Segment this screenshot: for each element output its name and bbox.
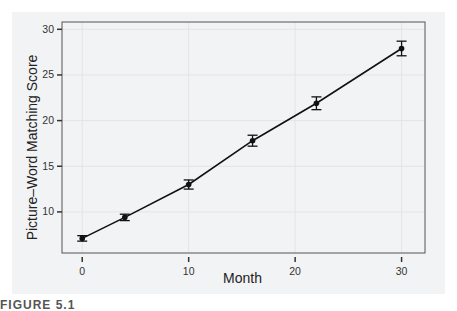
y-tick-label: 25 [42,68,54,80]
data-point [186,182,192,188]
figure-caption: FIGURE 5.1 [0,298,75,311]
x-tick-label: 0 [79,265,85,277]
data-point [399,46,405,52]
x-axis-title: Month [223,270,262,286]
data-point [250,138,256,144]
y-tick-label: 20 [42,114,54,126]
y-tick-label: 15 [42,160,54,172]
x-tick-label: 30 [396,265,408,277]
data-point [79,236,85,242]
y-tick-label: 10 [42,205,54,217]
x-tick-label: 20 [289,265,301,277]
plot-frame [62,22,425,253]
data-point [122,215,128,221]
data-point [314,100,320,106]
x-tick-label: 10 [183,265,195,277]
line-chart: 10152025300102030MonthPicture–Word Match… [0,0,457,311]
data-line [82,48,401,238]
y-axis-title: Picture–Word Matching Score [24,54,40,240]
y-tick-label: 30 [42,23,54,35]
